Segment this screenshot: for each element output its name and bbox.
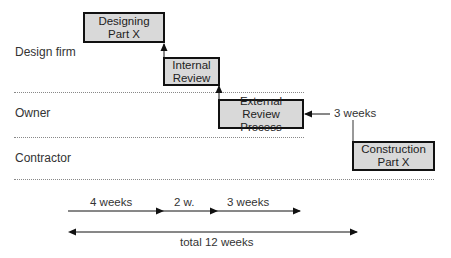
connector-arrows [0,0,451,258]
total-arrow-left-head [68,229,76,236]
